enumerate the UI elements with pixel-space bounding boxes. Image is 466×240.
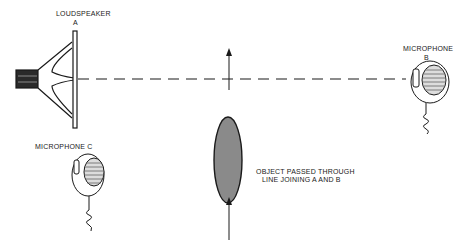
object-label-line1: OBJECT PASSED THROUGH: [256, 168, 355, 175]
diagram-canvas: LOUDSPEAKER A OBJECT PASSED THROUGH LINE…: [0, 0, 466, 240]
loudspeaker-icon: [16, 31, 77, 128]
microphone-b-icon: [411, 61, 449, 134]
object-label-line2: LINE JOINING A AND B: [262, 176, 341, 183]
arrow-up-bottom: [226, 197, 232, 240]
object-ellipse: [214, 117, 242, 203]
microphone-b-label: MICROPHONE: [403, 45, 453, 52]
loudspeaker-label: LOUDSPEAKER: [56, 10, 111, 17]
microphone-c-label: MICROPHONE C: [35, 143, 93, 150]
microphone-c-icon: [72, 154, 104, 231]
arrow-up-top: [226, 48, 232, 90]
microphone-b-id-label: B: [424, 54, 429, 61]
loudspeaker-id-label: A: [73, 19, 78, 26]
